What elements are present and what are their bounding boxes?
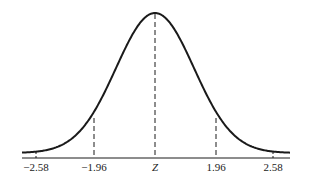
bell-curve	[22, 13, 290, 153]
normal-curve-svg: −2.58 −1.96 Z 1.96 2.58	[0, 0, 309, 180]
label-neg-1-96: −1.96	[81, 161, 107, 173]
label-pos-2-58: 2.58	[263, 161, 283, 173]
label-neg-2-58: −2.58	[23, 161, 49, 173]
label-pos-1-96: 1.96	[206, 161, 226, 173]
normal-distribution-figure: −2.58 −1.96 Z 1.96 2.58	[0, 0, 309, 180]
label-center-z: Z	[152, 161, 159, 173]
